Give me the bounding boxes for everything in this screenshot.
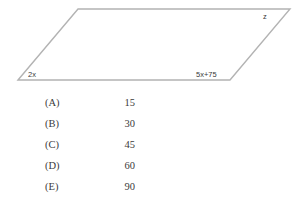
answer-choice-key: (A) [45, 96, 60, 109]
answer-choice-value: 60 [95, 159, 135, 172]
answer-choice-value: 30 [95, 117, 135, 130]
angle-label-top-right: z [263, 13, 267, 21]
parallelogram-outline [18, 9, 290, 80]
answer-choice-c[interactable]: (C) 45 [0, 138, 300, 159]
parallelogram-svg [0, 0, 300, 95]
geometry-question-page: 2x 5x+75 z (A) 15 (B) 30 (C) 45 (D) 60 (… [0, 0, 300, 207]
answer-choice-key: (E) [45, 180, 58, 193]
angle-label-bottom-right: 5x+75 [196, 71, 217, 79]
answer-choice-value: 15 [95, 96, 135, 109]
answer-choice-a[interactable]: (A) 15 [0, 96, 300, 117]
answer-choice-value: 90 [95, 180, 135, 193]
answer-choices-list: (A) 15 (B) 30 (C) 45 (D) 60 (E) 90 [0, 96, 300, 201]
answer-choice-key: (D) [45, 159, 60, 172]
answer-choice-key: (B) [45, 117, 59, 130]
angle-label-bottom-left: 2x [28, 71, 36, 79]
answer-choice-key: (C) [45, 138, 59, 151]
parallelogram-figure: 2x 5x+75 z [0, 0, 300, 95]
answer-choice-e[interactable]: (E) 90 [0, 180, 300, 201]
answer-choice-d[interactable]: (D) 60 [0, 159, 300, 180]
answer-choice-b[interactable]: (B) 30 [0, 117, 300, 138]
answer-choice-value: 45 [95, 138, 135, 151]
